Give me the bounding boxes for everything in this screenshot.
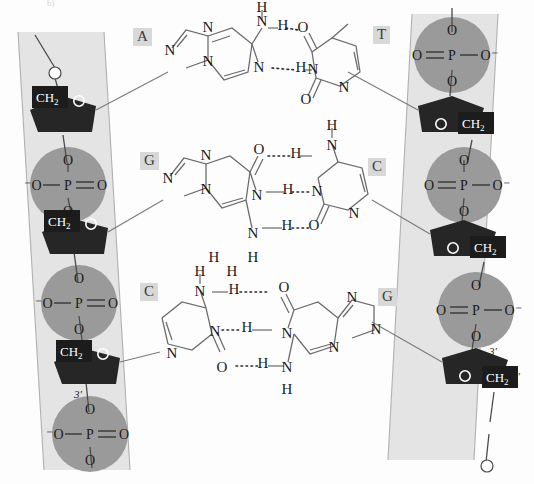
cytosine3-n4: N	[195, 283, 206, 299]
guanine3-c6-o6	[286, 294, 294, 310]
guanine3-c6-o6-b	[281, 297, 289, 313]
guanine3-n9: N	[371, 321, 382, 337]
guanine3-n3: N	[329, 339, 340, 355]
guanine3-o6: O	[279, 279, 290, 295]
prime-label-left-5: 5'	[56, 342, 64, 354]
cytosine3-ring-close	[162, 318, 168, 344]
hbond-cg-h2: H	[242, 319, 253, 335]
cytosine3-n4-h: H	[195, 263, 206, 279]
guanine3-n2: N	[282, 359, 293, 375]
prime-label-left-3: 3'	[74, 388, 82, 400]
prime-label-right-5: 5'	[512, 370, 520, 382]
figure-corner-mark: b)	[47, 0, 55, 8]
hbond-cg-h3: H	[258, 355, 269, 371]
guanine3-imid-db	[343, 305, 353, 317]
cytosine3-o2: O	[217, 359, 228, 375]
base-pair-3-CG: N H N O N H H H O N N H N N N H	[0, 0, 534, 484]
guanine3-n7: N	[347, 289, 358, 305]
prime-label-right-3: 3'	[489, 345, 497, 357]
cytosine3-n3: N	[210, 323, 221, 339]
base-label-G-pair3: G	[378, 288, 397, 306]
guanine3-imidazole-ring	[338, 300, 374, 338]
cytosine3-n4-h-second: H	[227, 263, 238, 279]
cytosine3-n1: N	[167, 345, 178, 361]
guanine3-n1: N	[282, 325, 293, 341]
base-label-C-pair3: C	[140, 283, 158, 301]
guanine3-n2-h: H	[282, 381, 293, 397]
hbond-cg-h1: H	[229, 281, 240, 297]
cytosine3-ring	[162, 302, 212, 350]
dna-base-pairing-figure: P O O ⁻O O P O O ⁻O O P O O ⁻O O P O O O…	[0, 0, 534, 484]
